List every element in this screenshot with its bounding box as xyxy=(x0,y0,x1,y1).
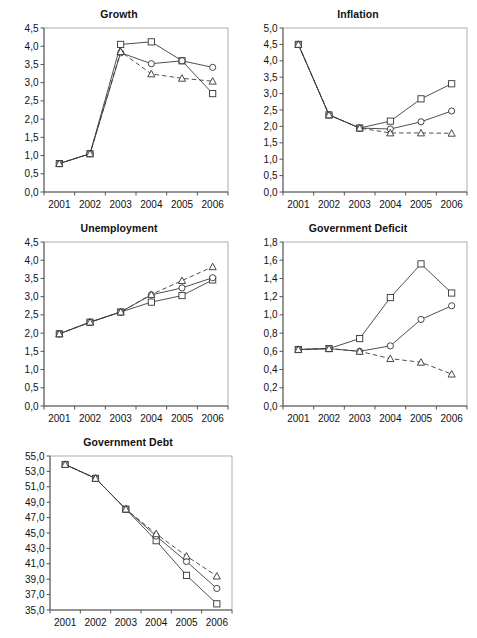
data-point-square-square-series-2006 xyxy=(449,290,455,296)
y-tick-label-0: 35,0 xyxy=(25,605,45,616)
y-tick-label-7: 3,5 xyxy=(264,72,278,83)
data-point-circle-circle-series-2004 xyxy=(148,61,154,67)
data-point-triangle-triangle-series-2006 xyxy=(448,371,455,377)
chart-plot-inflation: 0,00,51,01,52,02,53,03,54,04,55,02001200… xyxy=(239,22,477,218)
chart-title-inflation: Inflation xyxy=(239,8,477,20)
x-tick-label-0: 2001 xyxy=(287,199,310,210)
y-tick-label-2: 1,0 xyxy=(264,154,278,165)
y-tick-label-4: 2,0 xyxy=(264,121,278,132)
chart-svg-government-debt: 35,037,039,041,043,045,047,049,051,053,0… xyxy=(0,450,246,636)
chart-svg-inflation: 0,00,51,01,52,02,53,03,54,04,55,02001200… xyxy=(239,22,477,218)
x-tick-label-0: 2001 xyxy=(48,199,71,210)
data-point-triangle-triangle-series-2005 xyxy=(183,553,190,559)
series-line-square-series xyxy=(59,280,212,334)
x-tick-label-4: 2005 xyxy=(410,413,433,424)
y-tick-label-1: 0,5 xyxy=(25,168,39,179)
data-point-circle-circle-series-2006 xyxy=(449,108,455,114)
y-tick-label-6: 3,0 xyxy=(25,291,39,302)
y-tick-label-2: 0,4 xyxy=(264,364,278,375)
y-tick-label-3: 0,6 xyxy=(264,346,278,357)
chart-panel-unemployment: Unemployment 0,00,51,01,52,02,53,03,54,0… xyxy=(0,222,238,432)
data-point-circle-circle-series-2006 xyxy=(449,303,455,309)
x-tick-label-5: 2006 xyxy=(202,199,225,210)
chart-svg-government-deficit: 0,00,20,40,60,81,01,21,41,61,82001200220… xyxy=(239,236,477,432)
y-tick-label-8: 4,0 xyxy=(25,41,39,52)
data-point-circle-circle-series-2004 xyxy=(387,343,393,349)
data-point-square-square-series-2006 xyxy=(214,601,220,607)
data-point-square-square-series-2003 xyxy=(357,335,363,341)
data-point-square-square-series-2004 xyxy=(387,118,393,124)
y-tick-label-7: 3,5 xyxy=(25,273,39,284)
series-line-square-series xyxy=(59,42,212,164)
data-point-triangle-triangle-series-2004 xyxy=(148,70,155,76)
y-tick-label-4: 0,8 xyxy=(264,328,278,339)
data-point-triangle-triangle-series-2006 xyxy=(209,263,216,269)
x-tick-label-3: 2004 xyxy=(145,617,168,628)
plot-frame xyxy=(44,242,228,406)
data-point-square-square-series-2004 xyxy=(148,39,154,45)
y-tick-label-0: 0,0 xyxy=(25,401,39,412)
y-tick-label-8: 1,6 xyxy=(264,255,278,266)
y-tick-label-8: 51,0 xyxy=(25,481,45,492)
series-line-square-series xyxy=(65,464,217,603)
data-point-square-square-series-2005 xyxy=(418,96,424,102)
data-point-circle-circle-series-2005 xyxy=(179,285,185,291)
y-tick-label-3: 1,5 xyxy=(25,132,39,143)
data-point-circle-circle-series-2005 xyxy=(418,119,424,125)
data-point-square-square-series-2003 xyxy=(118,41,124,47)
chart-panel-inflation: Inflation 0,00,51,01,52,02,53,03,54,04,5… xyxy=(239,8,477,218)
data-point-circle-circle-series-2006 xyxy=(210,275,216,281)
y-tick-label-3: 1,5 xyxy=(264,137,278,148)
x-tick-label-1: 2002 xyxy=(318,199,341,210)
plot-frame xyxy=(283,28,467,192)
y-tick-label-9: 4,5 xyxy=(264,39,278,50)
chart-plot-government-debt: 35,037,039,041,043,045,047,049,051,053,0… xyxy=(0,450,246,636)
chart-plot-government-deficit: 0,00,20,40,60,81,01,21,41,61,82001200220… xyxy=(239,236,477,432)
y-tick-label-7: 3,5 xyxy=(25,59,39,70)
y-tick-label-6: 1,2 xyxy=(264,291,278,302)
y-tick-label-5: 1,0 xyxy=(264,309,278,320)
y-tick-label-4: 2,0 xyxy=(25,114,39,125)
y-tick-label-9: 53,0 xyxy=(25,466,45,477)
y-tick-label-9: 4,5 xyxy=(25,23,39,34)
chart-plot-growth: 0,00,51,01,52,02,53,03,54,04,52001200220… xyxy=(0,22,238,218)
x-tick-label-1: 2002 xyxy=(318,413,341,424)
plot-frame xyxy=(50,456,232,610)
series-line-triangle-series xyxy=(65,464,217,576)
y-tick-label-6: 47,0 xyxy=(25,512,45,523)
y-tick-label-7: 49,0 xyxy=(25,497,45,508)
chart-title-government-deficit: Government Deficit xyxy=(239,222,477,234)
data-point-square-square-series-2005 xyxy=(179,292,185,298)
chart-plot-unemployment: 0,00,51,01,52,02,53,03,54,04,52001200220… xyxy=(0,236,238,432)
y-tick-label-8: 4,0 xyxy=(25,255,39,266)
series-line-square-series xyxy=(298,264,451,350)
x-tick-label-4: 2005 xyxy=(171,413,194,424)
x-tick-label-1: 2002 xyxy=(79,413,102,424)
y-tick-label-6: 3,0 xyxy=(25,77,39,88)
x-tick-label-1: 2002 xyxy=(84,617,107,628)
series-line-triangle-series xyxy=(298,349,451,375)
x-tick-label-3: 2004 xyxy=(379,199,402,210)
x-tick-label-2: 2003 xyxy=(110,199,133,210)
series-line-circle-series xyxy=(298,306,451,352)
y-tick-label-0: 0,0 xyxy=(25,187,39,198)
chart-body-government-debt: 35,037,039,041,043,045,047,049,051,053,0… xyxy=(25,451,232,628)
y-tick-label-10: 55,0 xyxy=(25,451,45,462)
plot-frame xyxy=(283,242,467,406)
data-point-square-square-series-2006 xyxy=(210,91,216,97)
x-tick-label-1: 2002 xyxy=(79,199,102,210)
chart-panel-growth: Growth 0,00,51,01,52,02,53,03,54,04,5200… xyxy=(0,8,238,218)
data-point-circle-circle-series-2005 xyxy=(179,58,185,64)
x-tick-label-0: 2001 xyxy=(48,413,71,424)
data-point-square-square-series-2004 xyxy=(387,294,393,300)
y-tick-label-3: 41,0 xyxy=(25,558,45,569)
data-point-circle-circle-series-2006 xyxy=(214,585,220,591)
data-point-triangle-triangle-series-2005 xyxy=(178,277,185,283)
x-tick-label-3: 2004 xyxy=(379,413,402,424)
y-tick-label-5: 2,5 xyxy=(25,95,39,106)
y-tick-label-6: 3,0 xyxy=(264,88,278,99)
series-line-triangle-series xyxy=(59,267,212,334)
x-tick-label-5: 2006 xyxy=(441,199,464,210)
y-tick-label-5: 2,5 xyxy=(264,105,278,116)
figure-page: Growth 0,00,51,01,52,02,53,03,54,04,5200… xyxy=(0,0,477,638)
